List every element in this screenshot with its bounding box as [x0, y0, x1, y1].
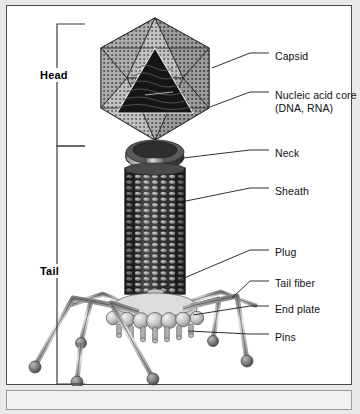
leader-pins	[188, 331, 269, 334]
callout-label-neck: Neck	[275, 147, 299, 160]
callout-label-capsid: Capsid	[275, 50, 308, 63]
figure-root: CapsidNucleic acid core (DNA, RNA)NeckSh…	[0, 0, 360, 414]
leader-sheath	[181, 188, 269, 202]
callout-label-pins: Pins	[275, 331, 296, 344]
callout-label-tail-fiber: Tail fiber	[275, 277, 315, 290]
leader-nucleic-acid-core	[210, 92, 269, 107]
bracket-label-head: Head	[37, 68, 71, 82]
callout-label-end-plate: End plate	[275, 303, 320, 316]
figure-panel: CapsidNucleic acid core (DNA, RNA)NeckSh…	[6, 5, 352, 385]
callout-label-sheath: Sheath	[275, 185, 309, 198]
bracket-head	[57, 24, 85, 146]
leader-end-plate	[193, 306, 269, 315]
leader-capsid	[212, 53, 269, 68]
caption-strip	[6, 390, 352, 410]
callout-label-nucleic-acid-core: Nucleic acid core (DNA, RNA)	[275, 89, 357, 114]
contractile-sheath	[125, 163, 185, 294]
diagram-stage: CapsidNucleic acid core (DNA, RNA)NeckSh…	[7, 6, 353, 386]
callout-label-plug: Plug	[275, 246, 296, 259]
leader-neck	[183, 150, 269, 158]
bracket-label-tail: Tail	[37, 264, 62, 278]
